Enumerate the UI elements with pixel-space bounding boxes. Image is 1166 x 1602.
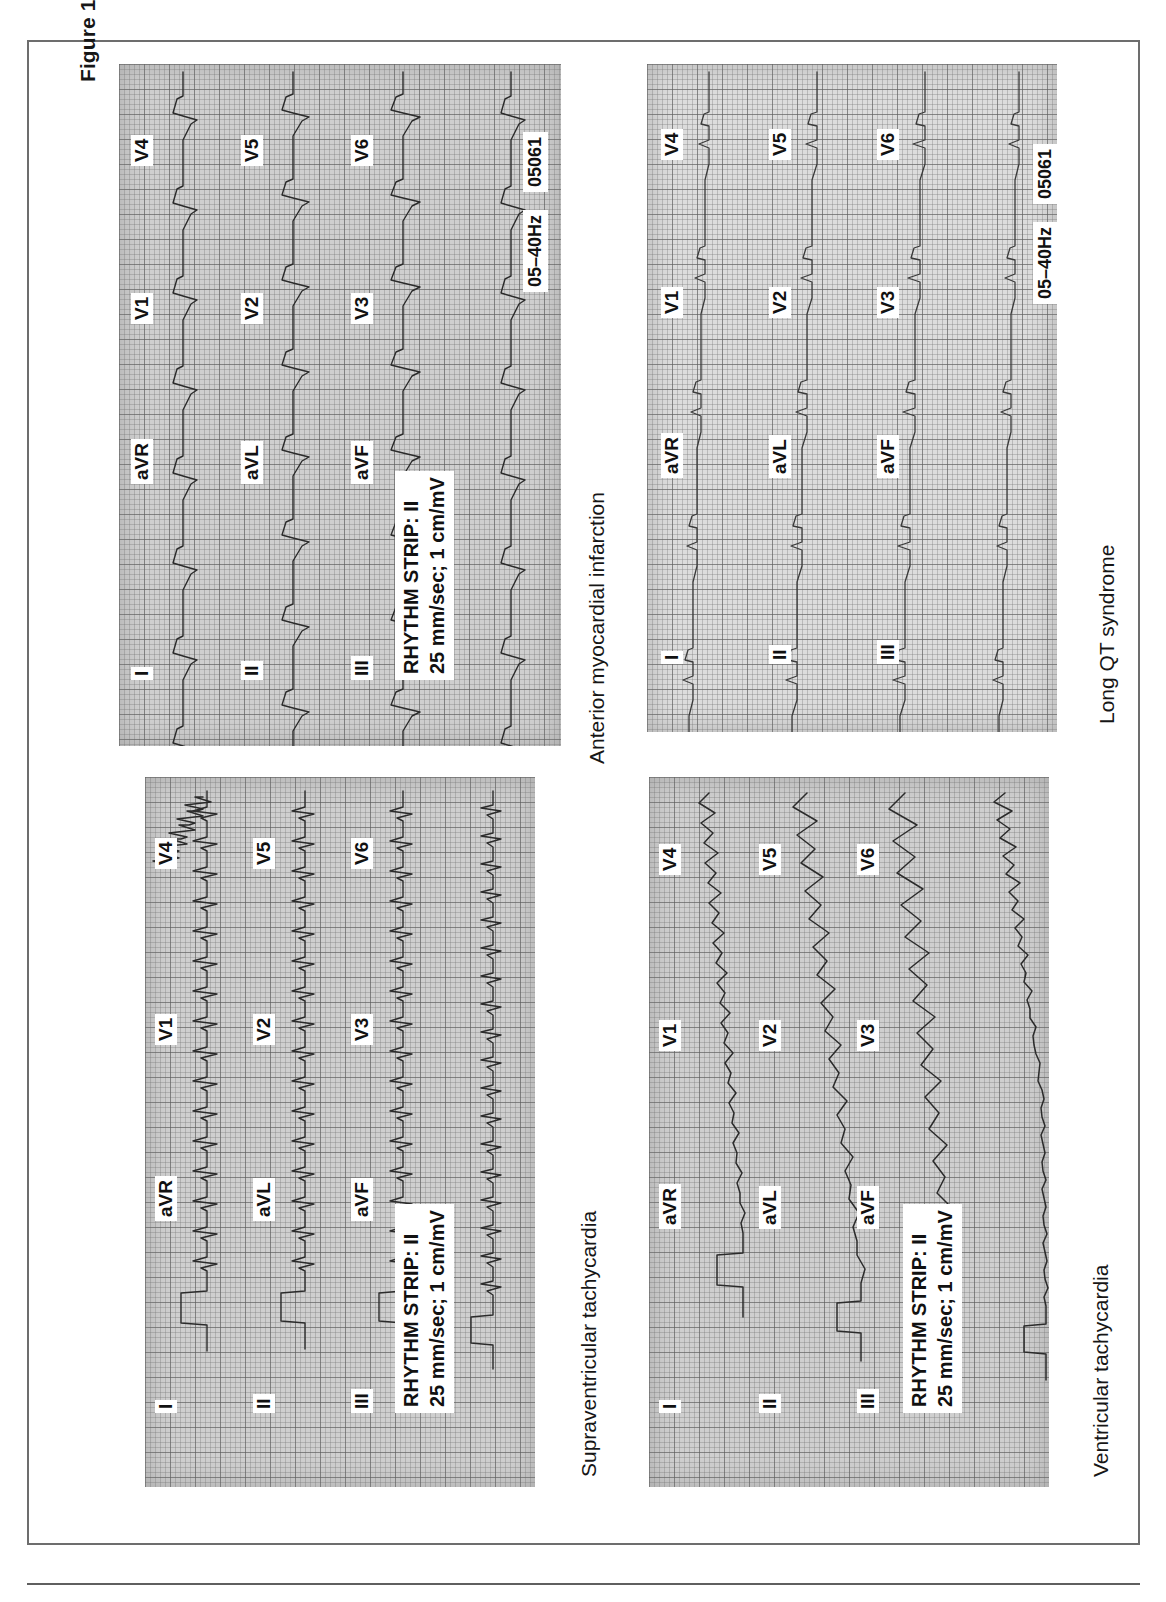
panel-title-supraventricular-tachycardia: Supraventricular tachycardia bbox=[577, 1211, 601, 1477]
recording-id-tag: 05061 bbox=[1033, 144, 1058, 204]
lead-tag-aVF: aVF bbox=[877, 435, 899, 478]
filter-tag: 05–40Hz bbox=[1033, 222, 1058, 304]
lead-tag-V5: V5 bbox=[241, 135, 263, 166]
panel-title-anterior-myocardial-infarction: Anterior myocardial infarction bbox=[585, 492, 609, 764]
lead-tag-V4: V4 bbox=[155, 838, 177, 869]
lead-tag-V2: V2 bbox=[759, 1020, 781, 1051]
lead-tag-aVR: aVR bbox=[155, 1176, 177, 1221]
lead-tag-I: I bbox=[131, 667, 153, 680]
rhythm-strip-info-box: RHYTHM STRIP: II 25 mm/sec; 1 cm/mV bbox=[395, 471, 454, 680]
lead-tag-V1: V1 bbox=[155, 1014, 177, 1045]
lead-tag-V5: V5 bbox=[759, 844, 781, 875]
lead-tag-aVL: aVL bbox=[759, 1186, 781, 1229]
rhythm-strip-lead: RHYTHM STRIP: II bbox=[907, 1210, 933, 1407]
lead-tag-V6: V6 bbox=[351, 135, 373, 166]
ecg-traces-ami bbox=[119, 64, 561, 746]
figure-caption: Figure 1.1 ECG strips demonstrating typi… bbox=[71, 0, 105, 82]
lead-tag-II: II bbox=[241, 661, 263, 680]
lead-tag-aVF: aVF bbox=[351, 441, 373, 484]
ecg-traces-lqt bbox=[647, 64, 1057, 732]
lead-tag-III: III bbox=[351, 1389, 373, 1413]
figure-frame: Figure 1.1 ECG strips demonstrating typi… bbox=[27, 40, 1140, 1545]
recording-id-tag: 05061 bbox=[523, 132, 548, 192]
lead-tag-III: III bbox=[857, 1389, 879, 1413]
lead-tag-V5: V5 bbox=[253, 838, 275, 869]
lead-tag-I: I bbox=[661, 651, 683, 664]
lead-tag-V6: V6 bbox=[877, 129, 899, 160]
rhythm-strip-lead: RHYTHM STRIP: II bbox=[399, 1210, 425, 1407]
lead-tag-V4: V4 bbox=[131, 135, 153, 166]
ecg-traces-vt bbox=[649, 777, 1049, 1487]
rhythm-strip-calibration: 25 mm/sec; 1 cm/mV bbox=[425, 477, 451, 674]
lead-tag-V2: V2 bbox=[253, 1014, 275, 1045]
lead-tag-II: II bbox=[769, 645, 791, 664]
lead-tag-V6: V6 bbox=[857, 844, 879, 875]
panel-long-qt-syndrome: I aVR V1 V4 II aVL V2 V5 III aVF V3 V6 0… bbox=[647, 64, 1057, 732]
lead-tag-V3: V3 bbox=[857, 1020, 879, 1051]
lead-tag-aVL: aVL bbox=[769, 435, 791, 478]
panel-title-long-qt-syndrome: Long QT syndrome bbox=[1095, 545, 1119, 724]
rhythm-strip-calibration: 25 mm/sec; 1 cm/mV bbox=[933, 1210, 959, 1407]
lead-tag-V1: V1 bbox=[131, 293, 153, 324]
lead-tag-V4: V4 bbox=[659, 844, 681, 875]
lead-tag-II: II bbox=[759, 1394, 781, 1413]
lead-tag-V2: V2 bbox=[241, 293, 263, 324]
panel-supraventricular-tachycardia: I aVR V1 V4 II aVL V2 V5 III aVF V3 V6 R… bbox=[145, 777, 535, 1487]
page-bottom-rule bbox=[27, 1583, 1140, 1585]
rhythm-strip-info-box: RHYTHM STRIP: II 25 mm/sec; 1 cm/mV bbox=[395, 1204, 454, 1413]
lead-tag-I: I bbox=[155, 1400, 177, 1413]
panel-title-ventricular-tachycardia: Ventricular tachycardia bbox=[1089, 1265, 1113, 1477]
lead-tag-V1: V1 bbox=[659, 1020, 681, 1051]
rhythm-strip-info-box: RHYTHM STRIP: II 25 mm/sec; 1 cm/mV bbox=[903, 1204, 962, 1413]
lead-tag-III: III bbox=[351, 656, 373, 680]
lead-tag-aVR: aVR bbox=[131, 439, 153, 484]
lead-tag-III: III bbox=[877, 640, 899, 664]
lead-tag-V5: V5 bbox=[769, 129, 791, 160]
lead-tag-aVR: aVR bbox=[659, 1184, 681, 1229]
lead-tag-V2: V2 bbox=[769, 287, 791, 318]
lead-tag-aVL: aVL bbox=[253, 1178, 275, 1221]
lead-tag-aVR: aVR bbox=[661, 433, 683, 478]
filter-tag: 05–40Hz bbox=[523, 210, 548, 292]
ecg-traces-svt bbox=[145, 777, 535, 1487]
lead-tag-V6: V6 bbox=[351, 838, 373, 869]
lead-tag-V3: V3 bbox=[351, 293, 373, 324]
lead-tag-V1: V1 bbox=[661, 287, 683, 318]
figure-number: Figure 1.1 bbox=[76, 0, 100, 82]
lead-tag-V3: V3 bbox=[877, 287, 899, 318]
lead-tag-aVF: aVF bbox=[857, 1186, 879, 1229]
rhythm-strip-calibration: 25 mm/sec; 1 cm/mV bbox=[425, 1210, 451, 1407]
lead-tag-V4: V4 bbox=[661, 129, 683, 160]
rhythm-strip-lead: RHYTHM STRIP: II bbox=[399, 477, 425, 674]
lead-tag-I: I bbox=[659, 1400, 681, 1413]
lead-tag-V3: V3 bbox=[351, 1014, 373, 1045]
lead-tag-aVL: aVL bbox=[241, 441, 263, 484]
lead-tag-aVF: aVF bbox=[351, 1178, 373, 1221]
lead-tag-II: II bbox=[253, 1394, 275, 1413]
panel-ventricular-tachycardia: I aVR V1 V4 II aVL V2 V5 III aVF V3 V6 R… bbox=[649, 777, 1049, 1487]
panel-anterior-myocardial-infarction: I aVR V1 V4 II aVL V2 V5 III aVF V3 V6 R… bbox=[119, 64, 561, 746]
